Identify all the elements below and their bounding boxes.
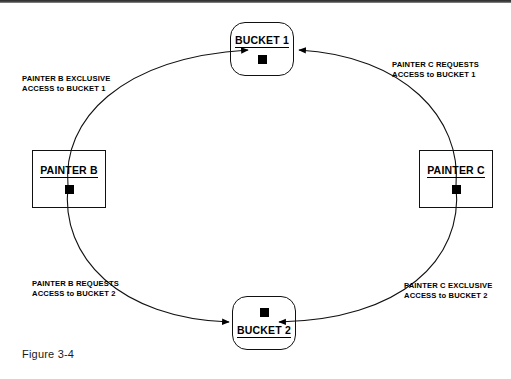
annotation-painter-b-requests-bucket-2: PAINTER B REQUESTS ACCESS to BUCKET 2 (32, 279, 119, 299)
node-bucket-2[interactable]: BUCKET 2 (232, 296, 296, 350)
node-bucket-2-label: BUCKET 2 (237, 324, 291, 338)
node-bucket-1[interactable]: BUCKET 1 (230, 22, 294, 76)
annotation-painter-c-requests-bucket-1: PAINTER C REQUESTS ACCESS to BUCKET 1 (392, 60, 479, 80)
annotation-painter-b-exclusive-bucket-1: PAINTER B EXCLUSIVE ACCESS to BUCKET 1 (22, 74, 110, 94)
node-painter-c[interactable]: PAINTER C (419, 150, 493, 208)
node-painter-c-label: PAINTER C (427, 164, 485, 178)
node-bucket-1-label: BUCKET 1 (235, 34, 289, 48)
painter-b-token-square (65, 185, 74, 194)
node-painter-b[interactable]: PAINTER B (32, 150, 106, 208)
bucket-2-token-square (260, 308, 269, 317)
figure-caption: Figure 3-4 (22, 348, 74, 360)
bucket-1-token-square (258, 55, 267, 64)
figure-page: BUCKET 1 BUCKET 2 PAINTER B PAINTER C PA… (0, 0, 511, 379)
annotation-painter-c-exclusive-bucket-2: PAINTER C EXCLUSIVE ACCESS to BUCKET 2 (404, 281, 492, 301)
painter-c-token-square (452, 185, 461, 194)
node-painter-b-label: PAINTER B (40, 164, 98, 178)
